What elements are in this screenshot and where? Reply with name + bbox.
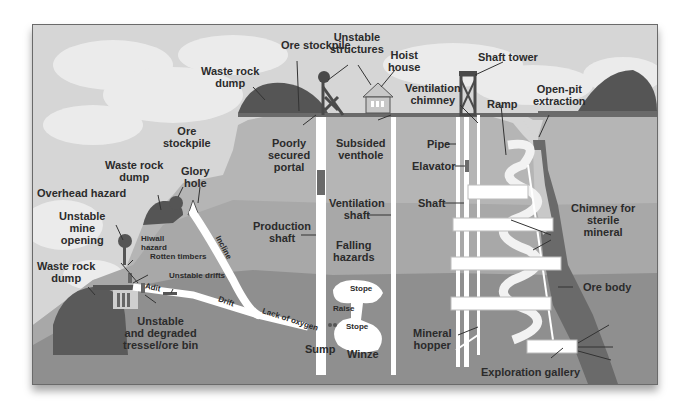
label-ore-body: Ore body: [583, 281, 631, 293]
label-winze: Winze: [347, 348, 379, 360]
label-ramp: Ramp: [487, 98, 518, 110]
label-rotten-timbers: Rotten timbers: [150, 252, 206, 261]
label-hoist-house: Hoist house: [388, 49, 420, 73]
label-glory-hole: Glory hole: [181, 165, 210, 189]
label-unstable-structures: Unstable structures: [330, 31, 384, 55]
label-unstable-mine-opening: Unstable mine opening: [59, 210, 105, 246]
label-ventilation-chimney: Ventilation chimney: [405, 82, 461, 106]
ventilation-shaft: [391, 117, 396, 375]
label-raise: Raise: [333, 304, 354, 313]
label-overhead-hazard: Overhead hazard: [37, 187, 126, 199]
label-hiwall-hazard: Hiwall hazard: [141, 234, 167, 252]
production-shaft: [316, 117, 326, 375]
label-ventilation-shaft: Ventilation shaft: [329, 197, 385, 221]
label-poorly-secured-portal: Poorly secured portal: [268, 137, 310, 173]
label-elevator: Elavator: [412, 160, 455, 172]
label-shaft-tower: Shaft tower: [478, 51, 538, 63]
label-stope-top: Stope: [350, 284, 372, 293]
label-pipe: Pipe: [427, 138, 450, 150]
label-subsided-venthole: Subsided venthole: [336, 137, 386, 161]
overhead-hazard-boulder: [118, 234, 132, 248]
ore-stockpile-left: [169, 196, 183, 210]
label-falling-hazards: Falling hazards: [333, 239, 375, 263]
label-unstable-drifts: Unstable drifts: [169, 271, 225, 280]
label-production-shaft: Production shaft: [253, 220, 311, 244]
label-waste-rock-dump-left: Waste rock dump: [37, 260, 95, 284]
label-waste-rock-dump-mid: Waste rock dump: [105, 159, 163, 183]
label-open-pit-extraction: Open-pit extraction: [533, 83, 586, 107]
label-unstable-tressel: Unstable and degraded tressel/ore bin: [123, 315, 198, 351]
label-exploration-gallery: Exploration gallery: [481, 366, 580, 378]
label-mineral-hopper: Mineral hopper: [413, 327, 452, 351]
label-waste-rock-dump-top: Waste rock dump: [201, 65, 259, 89]
label-ore-stockpile-left: Ore stockpile: [163, 125, 211, 149]
label-chimney-sterile-mineral: Chimney for sterile mineral: [571, 202, 635, 238]
label-stope-bottom: Stope: [346, 322, 368, 331]
mine-diagram-frame: Ore stockpile Unstable structures Hoist …: [32, 24, 658, 385]
label-shaft: Shaft: [418, 197, 446, 209]
label-sump: Sump: [305, 343, 336, 355]
